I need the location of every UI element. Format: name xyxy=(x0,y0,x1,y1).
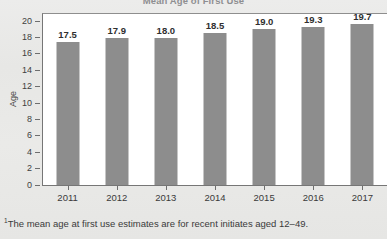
y-tick-label: 0 xyxy=(27,180,32,191)
y-tick-label: 16 xyxy=(22,48,32,59)
x-tick-mark xyxy=(117,186,118,190)
y-tick-10: 10 xyxy=(0,98,43,109)
y-tick-mark xyxy=(35,103,40,104)
x-tick-2015: 2015 xyxy=(240,186,289,210)
y-tick-label: 14 xyxy=(22,65,32,76)
bar-2016[interactable]: 19.3 xyxy=(289,13,338,185)
bar-series: 17.517.918.018.519.019.319.7 xyxy=(43,13,387,185)
y-tick-label: 2 xyxy=(27,163,32,174)
y-axis-tick-labels: 02468101214161820 xyxy=(0,0,43,239)
chart-title: Mean Age of First Use xyxy=(0,0,387,6)
bar-value-label: 19.0 xyxy=(244,16,284,27)
bar-value-label: 19.7 xyxy=(342,11,382,22)
y-tick-12: 12 xyxy=(0,81,43,92)
bar-2014[interactable]: 18.5 xyxy=(190,13,239,185)
x-tick-label: 2017 xyxy=(352,192,373,203)
bar-value-label: 19.3 xyxy=(293,14,333,25)
y-tick-label: 10 xyxy=(22,98,32,109)
bar-2015[interactable]: 19.0 xyxy=(240,13,289,185)
bar-2012[interactable]: 17.9 xyxy=(92,13,141,185)
y-tick-label: 8 xyxy=(27,114,32,125)
x-tick-label: 2012 xyxy=(106,192,127,203)
bar-rect[interactable] xyxy=(302,27,325,185)
y-tick-mark xyxy=(35,53,40,54)
y-tick-mark xyxy=(35,152,40,153)
x-tick-label: 2016 xyxy=(303,192,324,203)
y-tick-16: 16 xyxy=(0,48,43,59)
bar-2017[interactable]: 19.7 xyxy=(338,13,387,185)
bar-rect[interactable] xyxy=(154,38,177,185)
bar-rect[interactable] xyxy=(351,24,374,185)
y-tick-mark xyxy=(35,86,40,87)
x-tick-mark xyxy=(68,186,69,190)
y-tick-mark xyxy=(35,21,40,22)
bar-2011[interactable]: 17.5 xyxy=(43,13,92,185)
y-tick-label: 12 xyxy=(22,81,32,92)
y-tick-mark xyxy=(35,185,40,186)
bar-rect[interactable] xyxy=(56,42,79,185)
bar-rect[interactable] xyxy=(203,33,226,185)
y-tick-mark xyxy=(35,70,40,71)
bar-value-label: 18.5 xyxy=(195,20,235,31)
y-tick-2: 2 xyxy=(0,163,43,174)
x-tick-2012: 2012 xyxy=(92,186,141,210)
x-tick-label: 2014 xyxy=(204,192,225,203)
x-tick-mark xyxy=(313,186,314,190)
bar-value-label: 17.5 xyxy=(48,29,88,40)
x-tick-2014: 2014 xyxy=(190,186,239,210)
x-axis-tick-labels: 2011201220132014201520162017 xyxy=(43,186,387,210)
chart-figure: Mean Age of First Use Age 02468101214161… xyxy=(0,0,387,239)
bar-2013[interactable]: 18.0 xyxy=(141,13,190,185)
x-tick-mark xyxy=(166,186,167,190)
bar-value-label: 17.9 xyxy=(97,25,137,36)
x-tick-2017: 2017 xyxy=(338,186,387,210)
y-tick-0: 0 xyxy=(0,180,43,191)
y-tick-8: 8 xyxy=(0,114,43,125)
y-tick-mark xyxy=(35,135,40,136)
x-tick-2016: 2016 xyxy=(289,186,338,210)
bar-value-label: 18.0 xyxy=(146,25,186,36)
chart-footnote: 1The mean age at first use estimates are… xyxy=(4,217,384,229)
y-tick-4: 4 xyxy=(0,147,43,158)
y-tick-label: 4 xyxy=(27,147,32,158)
x-tick-2011: 2011 xyxy=(43,186,92,210)
bar-rect[interactable] xyxy=(105,38,128,185)
y-tick-label: 6 xyxy=(27,130,32,141)
y-tick-18: 18 xyxy=(0,32,43,43)
y-tick-6: 6 xyxy=(0,130,43,141)
x-tick-mark xyxy=(264,186,265,190)
x-tick-mark xyxy=(362,186,363,190)
x-tick-2013: 2013 xyxy=(141,186,190,210)
x-tick-label: 2013 xyxy=(155,192,176,203)
y-tick-14: 14 xyxy=(0,65,43,76)
y-tick-mark xyxy=(35,119,40,120)
y-tick-20: 20 xyxy=(0,16,43,27)
y-tick-mark xyxy=(35,37,40,38)
x-tick-label: 2011 xyxy=(57,192,77,203)
y-tick-mark xyxy=(35,168,40,169)
x-tick-label: 2015 xyxy=(254,192,275,203)
x-tick-mark xyxy=(215,186,216,190)
y-tick-label: 18 xyxy=(22,32,32,43)
y-tick-label: 20 xyxy=(22,16,32,27)
footnote-text: The mean age at first use estimates are … xyxy=(8,218,308,229)
bar-rect[interactable] xyxy=(253,29,276,185)
